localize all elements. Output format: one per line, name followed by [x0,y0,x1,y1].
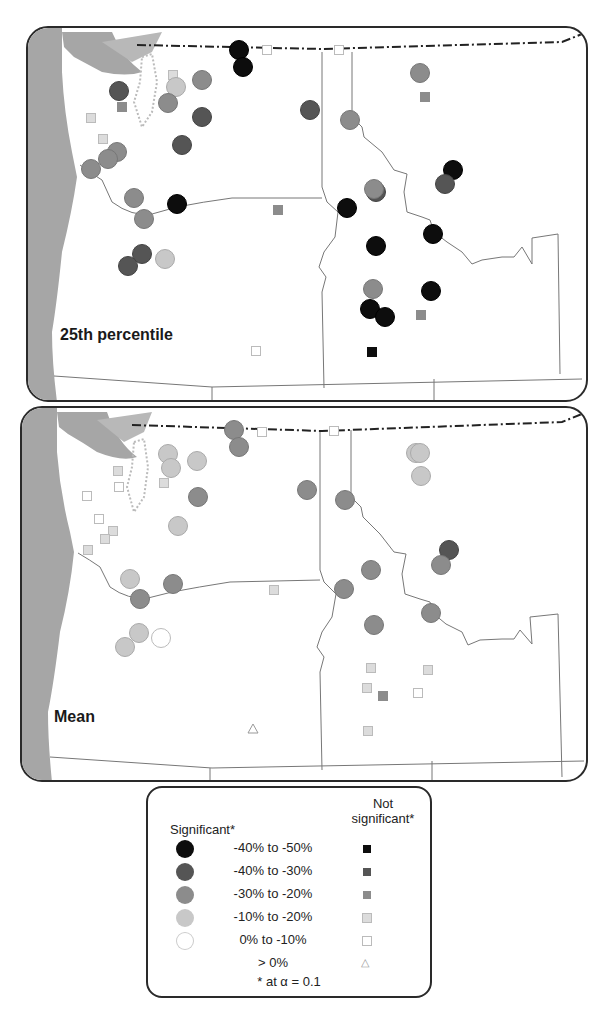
site-marker-significant [411,444,430,463]
site-marker-not-significant [274,206,283,215]
legend-square-icon [363,868,371,876]
site-marker-significant [422,282,441,301]
site-marker-not-significant [83,492,92,501]
site-marker-significant [301,101,320,120]
site-marker-significant [164,575,183,594]
map-panel-mean: Mean [20,406,588,782]
site-marker-not-significant [367,664,376,673]
site-marker-not-significant [160,479,169,488]
site-marker-significant [135,210,154,229]
site-marker-significant [168,195,187,214]
map-basemap [22,408,586,780]
site-marker-significant [162,459,181,478]
site-marker-significant [159,94,178,113]
legend-circle-icon [176,863,194,881]
legend-square-icon [363,845,371,853]
site-marker-not-significant [270,586,279,595]
site-marker-not-significant [114,467,123,476]
site-marker-significant [99,150,118,169]
site-marker-significant [125,189,144,208]
legend-row-class-4: 0% to -10% [148,930,430,952]
legend-label: -30% to -20% [208,886,338,901]
site-marker-significant [411,64,430,83]
site-marker-significant [422,604,441,623]
map-panel-25th-percentile: 25th percentile [26,26,588,402]
legend-label: -40% to -50% [208,840,338,855]
site-marker-significant [365,616,384,635]
site-marker-significant [193,108,212,127]
site-marker-significant [376,308,395,327]
site-marker-significant [336,491,355,510]
site-marker-significant [225,421,244,440]
site-marker-significant [116,638,135,657]
legend-label: 0% to -10% [208,932,338,947]
site-marker-not-significant [414,689,423,698]
legend-header-significant-star: significant* [338,811,428,826]
site-marker-significant [131,590,150,609]
site-marker-significant [364,280,383,299]
site-marker-not-significant [87,114,96,123]
canada-border [132,414,582,431]
legend-square-icon [363,914,371,922]
site-marker-significant [173,136,192,155]
legend-row-class-5: > 0% △ [148,953,430,975]
legend-header-not-significant: Not significant* [338,796,428,826]
site-marker-significant [121,570,140,589]
legend-header-significant: Significant* [170,822,235,837]
legend-circle-icon [176,932,194,950]
site-marker-significant [230,41,249,60]
site-marker-significant [365,180,384,199]
site-marker-significant [193,71,212,90]
site-marker-significant [432,556,451,575]
site-marker-significant [152,629,171,648]
site-marker-significant [341,111,360,130]
legend-row-class-3: -10% to -20% [148,907,430,929]
site-marker-significant [335,580,354,599]
site-marker-not-significant [417,311,426,320]
site-marker-not-significant [330,427,339,436]
legend-header-not: Not [338,796,428,811]
state-borders [50,430,584,780]
legend-row-class-0: -40% to -50% [148,838,430,860]
site-marker-significant [189,488,208,507]
site-marker-not-significant [99,135,108,144]
site-marker-not-significant [263,46,272,55]
site-marker-not-significant [364,727,373,736]
site-marker-increase [248,724,258,733]
site-marker-significant [338,199,357,218]
site-marker-not-significant [101,535,110,544]
site-marker-significant [234,58,253,77]
map-legend: Significant* Not significant* -40% to -5… [146,786,432,998]
canada-border [137,34,582,49]
site-marker-significant [424,225,443,244]
site-marker-significant [156,250,175,269]
legend-label: -40% to -30% [208,863,338,878]
site-marker-significant [298,481,317,500]
site-marker-not-significant [115,483,124,492]
site-marker-not-significant [95,515,104,524]
site-marker-significant [188,452,207,471]
legend-footnote: * at α = 0.1 [148,974,430,989]
site-marker-significant [82,160,101,179]
site-marker-not-significant [335,46,344,55]
site-marker-not-significant [258,428,267,437]
site-marker-not-significant [363,684,372,693]
site-marker-not-significant [84,546,93,555]
site-marker-not-significant [421,93,430,102]
map-title-mean: Mean [54,708,95,726]
site-marker-significant [119,257,138,276]
site-marker-significant [230,438,249,457]
legend-row-class-2: -30% to -20% [148,884,430,906]
site-marker-significant [169,517,188,536]
site-marker-significant [362,561,381,580]
site-marker-not-significant [379,692,388,701]
map-title-25th-percentile: 25th percentile [60,326,173,344]
site-marker-significant [436,175,455,194]
legend-circle-icon [176,886,194,904]
legend-row-class-1: -40% to -30% [148,861,430,883]
legend-label: > 0% [208,955,338,970]
site-marker-significant [412,467,431,486]
legend-square-icon [363,937,371,945]
site-marker-not-significant [252,347,261,356]
legend-square-icon [363,891,371,899]
